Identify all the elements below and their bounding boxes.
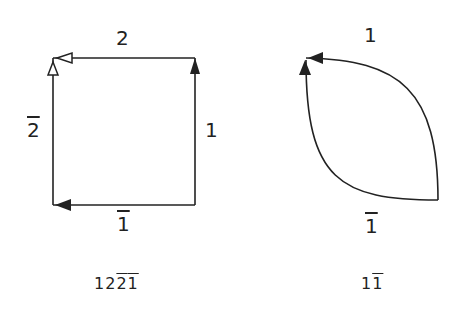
loop-word-lens: 11 — [361, 276, 383, 292]
lens-loop — [306, 58, 438, 200]
edge-label-top: 1 — [364, 25, 377, 45]
word-char-barred: 2 — [116, 274, 127, 293]
edge-label-left: 2 — [27, 120, 40, 140]
open-arrow-icon — [48, 62, 58, 75]
word-char-barred: 1 — [128, 274, 139, 293]
loop-word-square: 1221 — [94, 276, 139, 292]
filled-arrow-icon — [190, 58, 200, 74]
edge-bottom-curve — [306, 60, 438, 200]
square-loop — [53, 58, 195, 205]
word-char: 1 — [94, 274, 105, 293]
diagram-canvas — [0, 0, 468, 315]
word-char-barred: 1 — [372, 274, 383, 293]
word-char: 1 — [361, 274, 372, 293]
edge-top-curve — [306, 58, 438, 200]
open-arrow-icon — [57, 53, 72, 63]
edge-label-right: 1 — [205, 120, 218, 140]
edge-label-top: 2 — [116, 28, 129, 48]
edge-label-bottom: 1 — [365, 216, 378, 236]
filled-arrow-icon — [55, 199, 71, 211]
word-char: 2 — [105, 274, 116, 293]
edge-label-bottom: 1 — [117, 214, 130, 234]
filled-arrow-icon — [308, 52, 323, 64]
filled-arrow-icon — [299, 60, 311, 75]
